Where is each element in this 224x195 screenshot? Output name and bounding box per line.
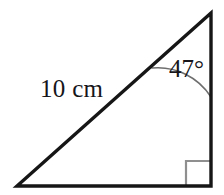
hypotenuse-length-label: 10 cm (40, 75, 104, 102)
vertex-angle-label: 47° (169, 55, 204, 82)
triangle-figure: 10 cm 47° (0, 0, 224, 195)
right-angle-marker (186, 161, 211, 186)
diagram-canvas: 10 cm 47° (0, 0, 224, 195)
